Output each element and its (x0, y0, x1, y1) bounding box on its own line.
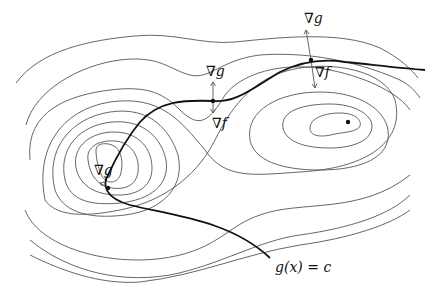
contour-lower-2 (30, 195, 410, 278)
grad-g-label-middle: ∇g (206, 64, 225, 78)
right-extremum-point (346, 120, 350, 124)
contour-left-2 (64, 122, 167, 204)
left-tangent-point (106, 186, 110, 190)
middle-tangent-point (211, 99, 215, 103)
contour-right-3 (310, 113, 360, 136)
contour-left-1 (53, 111, 180, 216)
lagrange-diagram: ∇g ∇g ∇f ∇g ∇f g(x) = c (0, 0, 445, 294)
contour-right-1 (250, 92, 389, 170)
grad-f-label-middle: ∇f (212, 116, 227, 130)
contour-right-2 (283, 104, 372, 148)
contour-lower-1 (25, 175, 410, 260)
contour-lower-3 (30, 210, 410, 282)
contour-separatrix (43, 66, 397, 214)
grad-g-label-left: ∇g (94, 163, 113, 177)
grad-f-label-right: ∇f (315, 65, 330, 79)
right-tangent-point (309, 58, 313, 62)
contour-plot (0, 0, 445, 294)
contour-3 (30, 67, 410, 160)
grad-g-label-right: ∇g (304, 11, 323, 25)
constraint-label: g(x) = c (275, 260, 331, 274)
